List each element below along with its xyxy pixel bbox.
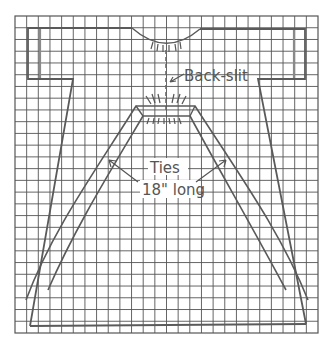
ties-arrow-left: [109, 160, 138, 182]
yoke-inner: [48, 116, 286, 290]
ties-length-label: 18" long: [142, 181, 205, 199]
yoke: [26, 106, 308, 300]
yoke-gathers-bottom: [147, 118, 181, 124]
yoke-outer: [26, 106, 308, 300]
pattern-diagram: Back-slit Ties 18" long: [0, 0, 332, 347]
back-slit-arrow: [170, 74, 184, 82]
ties-arrow-right: [196, 160, 226, 182]
back-slit-label: Back-slit: [184, 67, 248, 85]
left-sleeve: [28, 28, 132, 326]
bottom-hem: [30, 324, 306, 326]
garment-outline: [28, 28, 306, 326]
ties-label: Ties: [149, 159, 180, 177]
